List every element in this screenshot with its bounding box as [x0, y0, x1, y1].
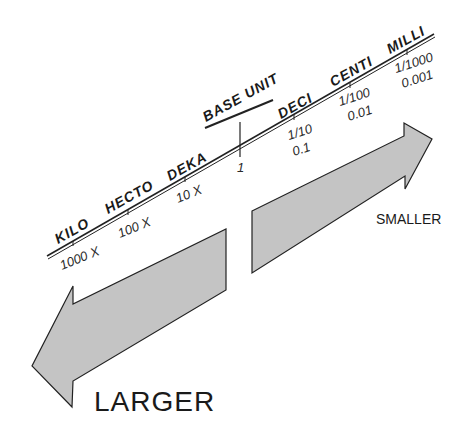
prefix-hecto: HECTO	[102, 177, 157, 217]
larger-label: LARGER	[94, 386, 215, 417]
factor-kilo: 1000 X	[58, 243, 103, 273]
factor-deka: 10 X	[174, 181, 206, 205]
smaller-arrow-icon	[252, 123, 432, 273]
factor-hecto: 100 X	[116, 214, 154, 241]
decimal-deci: 0.1	[290, 139, 312, 159]
metric-prefix-diagram: KILO HECTO DEKA BASE UNIT DECI CENTI MIL…	[0, 0, 474, 435]
prefix-deka: DEKA	[164, 148, 210, 183]
smaller-label: SMALLER	[376, 211, 441, 227]
factor-base: 1	[237, 160, 244, 175]
larger-arrow-icon	[32, 229, 226, 407]
prefix-base-unit: BASE UNIT	[200, 69, 282, 124]
factor-deci: 1/10	[285, 121, 314, 143]
